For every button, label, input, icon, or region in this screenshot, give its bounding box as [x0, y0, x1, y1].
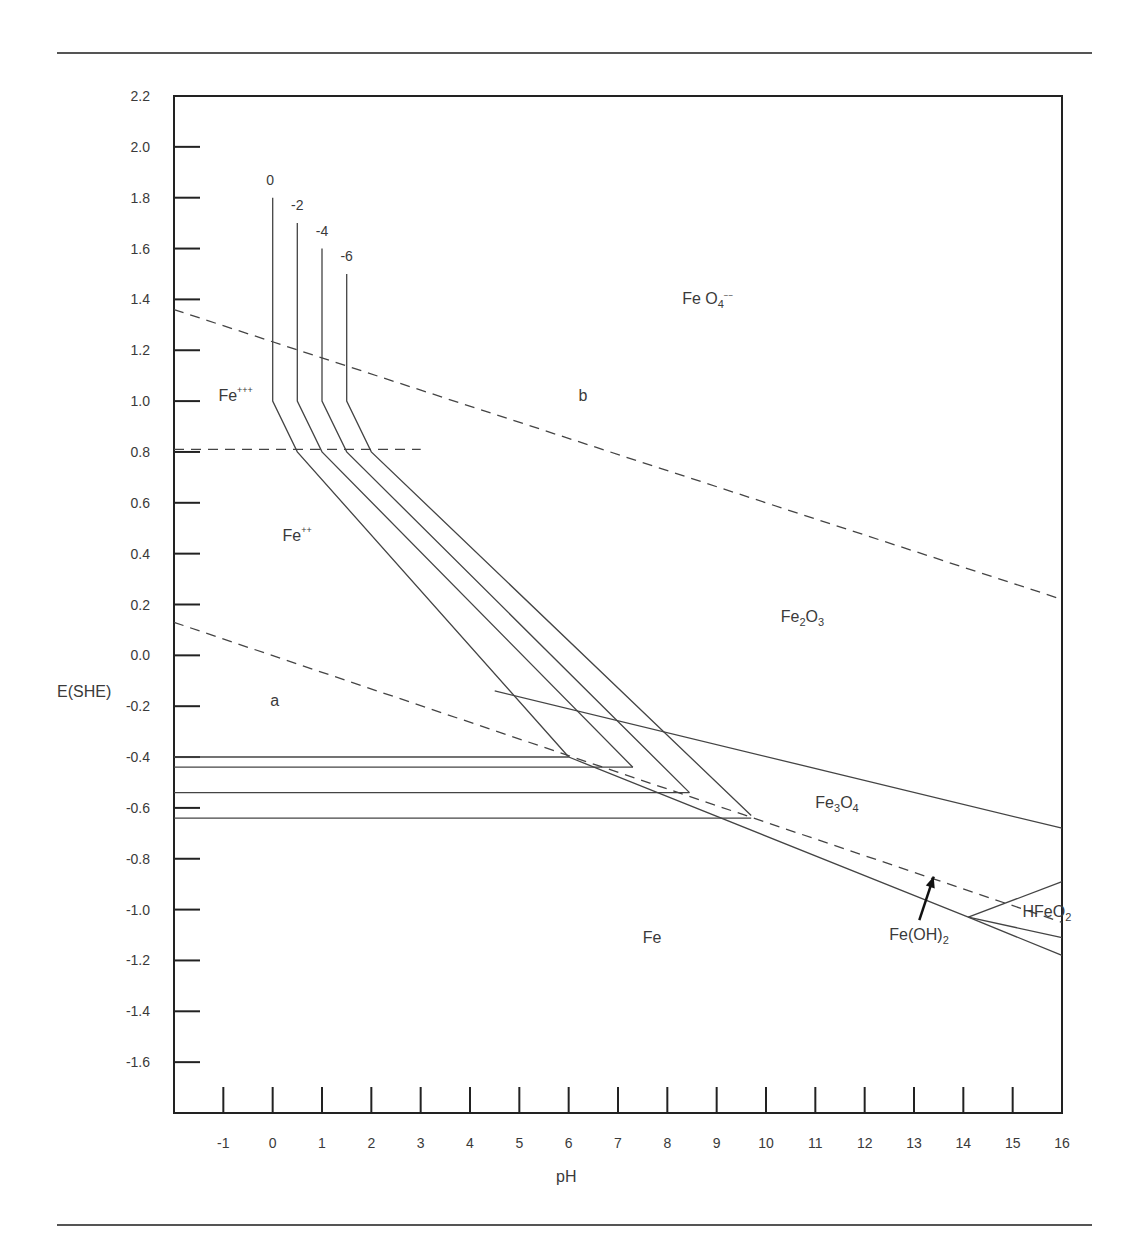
x-tick-label: 5	[515, 1135, 523, 1151]
y-tick-label: -0.8	[126, 851, 150, 867]
y-axis: 2.22.01.81.61.41.21.00.80.60.40.20.0-0.2…	[126, 88, 200, 1070]
concentration-label: 0	[266, 172, 274, 188]
y-tick-label: 1.4	[131, 291, 151, 307]
region-label: Fe(OH)2	[889, 926, 948, 946]
x-tick-label: 0	[269, 1135, 277, 1151]
x-tick-label: 11	[808, 1135, 823, 1151]
x-tick-label: 9	[713, 1135, 721, 1151]
boundary-line	[273, 198, 569, 757]
y-tick-label: -1.2	[126, 952, 150, 968]
x-tick-label: 15	[1005, 1135, 1021, 1151]
y-tick-label: 0.4	[131, 546, 151, 562]
x-tick-label: 13	[906, 1135, 922, 1151]
x-tick-label: 4	[466, 1135, 474, 1151]
region-label: a	[270, 692, 279, 709]
concentration-label: -4	[316, 223, 329, 239]
region-label: b	[579, 387, 588, 404]
y-tick-label: -1.0	[126, 902, 150, 918]
boundary-line	[174, 310, 1062, 600]
y-axis-label: E(SHE)	[57, 683, 111, 700]
series-layer	[174, 198, 1062, 956]
y-tick-label: 0.2	[131, 597, 151, 613]
region-label: Fe3O4	[815, 794, 858, 814]
y-tick-label: -1.6	[126, 1054, 150, 1070]
x-tick-label: 2	[367, 1135, 375, 1151]
region-label: Fe+++	[218, 385, 252, 404]
arrowhead-icon	[926, 877, 935, 889]
y-tick-label: 0.0	[131, 647, 151, 663]
y-tick-label: 2.2	[131, 88, 151, 104]
y-tick-label: 2.0	[131, 139, 151, 155]
x-tick-label: 3	[417, 1135, 425, 1151]
plot-frame	[174, 96, 1062, 1113]
region-label: Fe O4−−	[682, 290, 733, 310]
x-axis: -1012345678910111213141516	[217, 1087, 1070, 1151]
x-tick-label: 1	[318, 1135, 326, 1151]
y-tick-label: 1.0	[131, 393, 151, 409]
region-label: Fe2O3	[781, 608, 824, 628]
y-tick-label: 0.6	[131, 495, 151, 511]
y-tick-label: -0.2	[126, 698, 150, 714]
region-label: HFeO2	[1023, 903, 1072, 923]
region-label: Fe++	[283, 525, 312, 544]
concentration-label: -2	[291, 197, 304, 213]
x-tick-label: 14	[956, 1135, 972, 1151]
y-tick-label: -0.6	[126, 800, 150, 816]
boundary-line	[968, 917, 1062, 937]
y-tick-label: -1.4	[126, 1003, 150, 1019]
boundary-line	[322, 249, 690, 793]
x-axis-label: pH	[556, 1168, 576, 1185]
x-tick-label: 12	[857, 1135, 873, 1151]
x-tick-label: -1	[217, 1135, 230, 1151]
pourbaix-diagram: 2.22.01.81.61.41.21.00.80.60.40.20.0-0.2…	[0, 0, 1135, 1257]
x-tick-label: 10	[758, 1135, 774, 1151]
y-tick-label: 0.8	[131, 444, 151, 460]
plot-border	[174, 96, 1062, 1113]
y-tick-label: 1.8	[131, 190, 151, 206]
x-tick-label: 7	[614, 1135, 622, 1151]
y-tick-label: -0.4	[126, 749, 150, 765]
y-tick-label: 1.6	[131, 241, 151, 257]
x-tick-label: 6	[565, 1135, 573, 1151]
region-label: Fe	[643, 929, 662, 946]
concentration-label: -6	[340, 248, 353, 264]
x-tick-label: 16	[1054, 1135, 1070, 1151]
x-tick-label: 8	[663, 1135, 671, 1151]
boundary-line	[174, 622, 1062, 922]
boundary-line	[569, 757, 1062, 955]
y-tick-label: 1.2	[131, 342, 151, 358]
